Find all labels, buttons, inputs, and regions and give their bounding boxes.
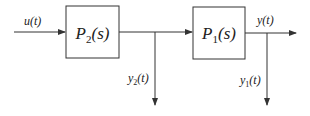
output-label: y(t) [256, 13, 274, 27]
y1-label: y1(t) [239, 73, 261, 89]
block-p2-label: P2(s) [75, 24, 110, 45]
input-label: u(t) [24, 14, 41, 28]
block-p1-label: P1(s) [201, 24, 236, 45]
y2-label: y2(t) [127, 71, 149, 87]
block-diagram: u(t) P2(s) y2(t) P1(s) y(t) y1(t) [0, 0, 310, 116]
